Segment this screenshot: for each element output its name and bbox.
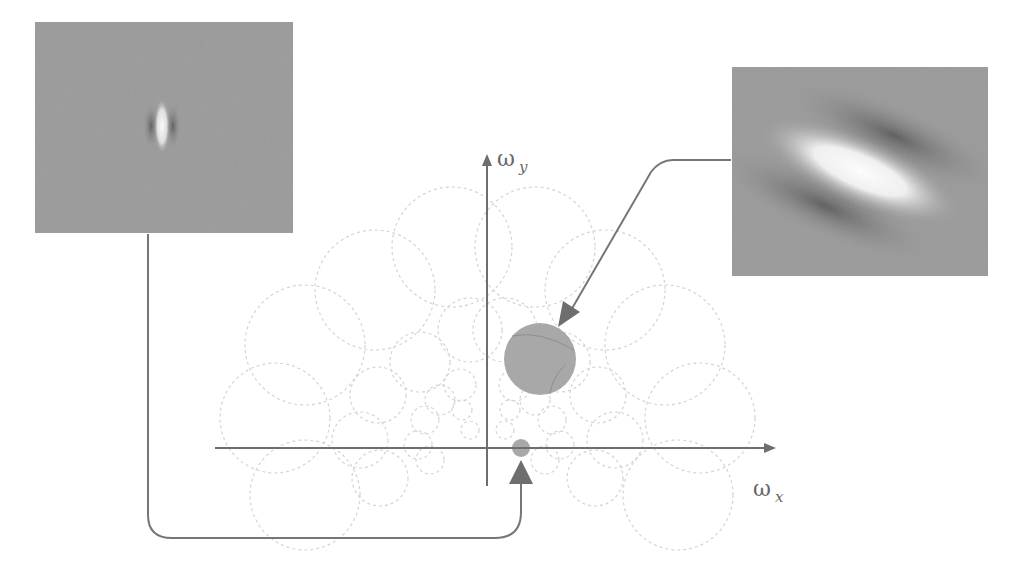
gabor-diagram: ωy ωx xyxy=(0,0,1017,569)
left-connector-arrowhead xyxy=(509,460,533,484)
y-axis-omega: ω xyxy=(497,146,515,171)
x-axis-omega: ω xyxy=(753,476,771,501)
large-filter-highlight xyxy=(504,323,576,395)
x-axis-subscript: x xyxy=(775,488,783,506)
x-axis-label: ωx xyxy=(753,476,783,501)
y-axis-label: ωy xyxy=(497,146,527,171)
y-axis-subscript: y xyxy=(519,158,527,176)
right-connector-arrowhead xyxy=(558,301,580,327)
left-connector-arrow xyxy=(148,234,521,538)
right-connector-arrow xyxy=(570,160,731,312)
frequency-plane xyxy=(0,0,1017,569)
